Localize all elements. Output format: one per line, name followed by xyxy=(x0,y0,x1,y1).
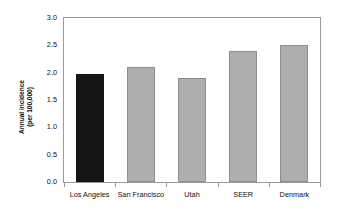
bars-group xyxy=(64,18,320,182)
y-axis-title-line-2: (per 100,000) xyxy=(26,80,34,134)
x-tick-mark xyxy=(115,183,116,187)
y-tick-label: 1.5 xyxy=(47,95,57,104)
y-tick-label: 3.0 xyxy=(47,13,57,22)
x-axis-label: Los Angeles xyxy=(64,189,115,203)
bar-slot xyxy=(166,18,217,182)
y-tick-label: 2.5 xyxy=(47,40,57,49)
bar-utah xyxy=(178,78,206,182)
y-axis-title: Annual incidence (per 100,000) xyxy=(13,0,39,214)
y-tick-label: 0.0 xyxy=(47,177,57,186)
x-tick-mark xyxy=(269,183,270,187)
bar-slot xyxy=(269,18,320,182)
x-tick-mark xyxy=(166,183,167,187)
x-axis-labels: Los AngelesSan FranciscoUtahSEERDenmark xyxy=(64,189,320,203)
x-tick-mark xyxy=(218,183,219,187)
x-axis-label: Denmark xyxy=(269,189,320,203)
y-tick-label: 1.0 xyxy=(47,122,57,131)
x-axis-label: Utah xyxy=(166,189,217,203)
y-tick-label: 2.0 xyxy=(47,68,57,77)
x-axis-label: San Francisco xyxy=(115,189,166,203)
x-axis-label: SEER xyxy=(218,189,269,203)
bar-slot xyxy=(115,18,166,182)
bar-slot xyxy=(64,18,115,182)
bar-seer xyxy=(229,51,257,182)
bar-denmark xyxy=(280,45,308,182)
y-axis-title-line-1: Annual incidence xyxy=(18,80,26,134)
bar-slot xyxy=(218,18,269,182)
bar-san-francisco xyxy=(127,67,155,182)
bar-chart: Annual incidence (per 100,000) 3.02.52.0… xyxy=(0,0,338,214)
y-tick-label: 0.5 xyxy=(47,150,57,159)
bar-los-angeles xyxy=(76,74,104,182)
x-tick-mark xyxy=(64,183,65,187)
x-tick-mark xyxy=(320,183,321,187)
